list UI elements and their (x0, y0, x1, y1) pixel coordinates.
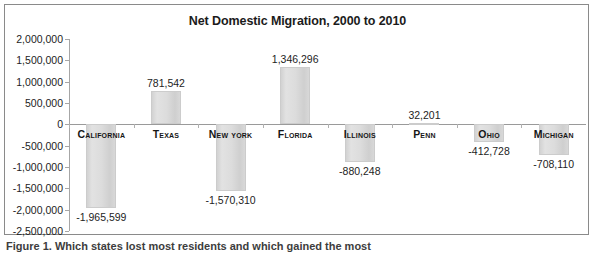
category-tick (521, 124, 522, 128)
y-axis-tick (65, 231, 69, 232)
y-axis-label: 1,500,000 (16, 54, 63, 66)
y-axis-line (69, 39, 70, 231)
category-tick (134, 124, 135, 128)
value-label-michigan: -708,110 (533, 158, 574, 170)
y-axis-label: -1,000,000 (13, 161, 63, 173)
category-label-florida: Florida (278, 128, 313, 140)
chart-title: Net Domestic Migration, 2000 to 2010 (5, 14, 590, 28)
y-axis-label: 2,000,000 (16, 33, 63, 45)
bar-texas[interactable] (151, 91, 181, 124)
y-axis-label: -2,500,000 (13, 225, 63, 237)
value-label-ohio: -412,728 (468, 145, 509, 157)
category-label-ohio: Ohio (478, 128, 499, 140)
category-tick (263, 124, 264, 128)
value-label-florida: 1,346,296 (272, 53, 319, 65)
plot-area: 2,000,0001,500,0001,000,000500,0000-500,… (69, 39, 586, 231)
category-label-michigan: Michigan (534, 128, 574, 140)
category-label-illinois: Illinois (344, 128, 376, 140)
y-axis-label: -1,500,000 (13, 182, 63, 194)
value-label-new-york: -1,570,310 (205, 194, 255, 206)
y-axis-tick (65, 103, 69, 104)
y-axis-tick (65, 146, 69, 147)
y-axis-tick (65, 210, 69, 211)
category-label-texas: Texas (153, 128, 180, 140)
y-axis-label: 0 (57, 118, 63, 130)
category-tick (328, 124, 329, 128)
figure-caption: Figure 1. Which states lost most residen… (6, 240, 586, 253)
value-label-penn: 32,201 (408, 109, 440, 121)
value-label-california: -1,965,599 (76, 211, 126, 223)
y-axis-label: -2,000,000 (13, 204, 63, 216)
category-tick (69, 124, 70, 128)
y-axis-label: 500,000 (25, 97, 63, 109)
y-axis-tick (65, 82, 69, 83)
chart-figure: Net Domestic Migration, 2000 to 2010 2,0… (4, 4, 589, 235)
category-label-penn: Penn (413, 128, 436, 140)
category-tick (457, 124, 458, 128)
category-label-california: California (77, 128, 125, 140)
y-axis-label: -500,000 (22, 140, 63, 152)
bar-florida[interactable] (280, 67, 310, 124)
category-tick (392, 124, 393, 128)
y-axis-tick (65, 167, 69, 168)
value-label-illinois: -880,248 (339, 165, 380, 177)
value-label-texas: 781,542 (147, 77, 185, 89)
y-axis-label: 1,000,000 (16, 76, 63, 88)
y-axis-tick (65, 60, 69, 61)
category-tick (198, 124, 199, 128)
y-axis-tick (65, 39, 69, 40)
bar-penn[interactable] (409, 123, 439, 125)
category-label-new-york: New York (209, 128, 253, 140)
y-axis-tick (65, 188, 69, 189)
